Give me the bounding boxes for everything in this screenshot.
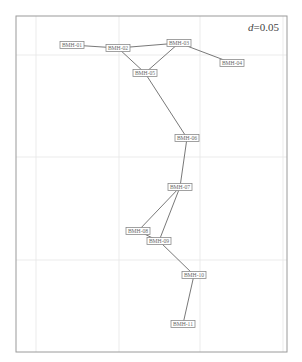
- node-label: BMH-05: [135, 70, 155, 76]
- edge-bmh-07-bmh-08: [138, 187, 180, 231]
- node-label: BMH-03: [169, 40, 189, 46]
- gridlines: [16, 16, 287, 352]
- node-label: BMH-07: [170, 184, 190, 190]
- edges: [72, 43, 232, 324]
- node-label: BMH-11: [173, 321, 193, 327]
- node-bmh-08: BMH-08: [126, 228, 150, 235]
- node-label: BMH-01: [62, 42, 82, 48]
- node-bmh-07: BMH-07: [168, 184, 192, 191]
- node-bmh-03: BMH-03: [167, 40, 191, 47]
- nodes: BMH-01BMH-02BMH-03BMH-04BMH-05BMH-06BMH-…: [60, 40, 244, 328]
- node-bmh-09: BMH-09: [147, 238, 171, 245]
- node-label: BMH-08: [128, 228, 148, 234]
- plot-frame: [16, 16, 287, 352]
- node-bmh-10: BMH-10: [182, 272, 206, 279]
- node-label: BMH-06: [177, 135, 197, 141]
- edge-bmh-06-bmh-07: [180, 138, 187, 187]
- distance-annotation: d=0.05: [248, 21, 279, 33]
- node-label: BMH-04: [222, 60, 242, 66]
- node-label: BMH-09: [149, 238, 169, 244]
- diagram-svg: BMH-01BMH-02BMH-03BMH-04BMH-05BMH-06BMH-…: [0, 0, 302, 362]
- edge-bmh-05-bmh-06: [145, 73, 187, 138]
- node-bmh-06: BMH-06: [175, 135, 199, 142]
- node-bmh-05: BMH-05: [133, 70, 157, 77]
- node-bmh-01: BMH-01: [60, 42, 84, 49]
- network-diagram: BMH-01BMH-02BMH-03BMH-04BMH-05BMH-06BMH-…: [0, 0, 302, 362]
- edge-bmh-09-bmh-10: [159, 241, 194, 275]
- edge-bmh-03-bmh-05: [145, 43, 179, 73]
- annotation-value: =0.05: [254, 21, 280, 33]
- node-label: BMH-02: [108, 45, 128, 51]
- node-label: BMH-10: [184, 272, 204, 278]
- edge-bmh-07-bmh-09: [159, 187, 180, 241]
- edge-bmh-10-bmh-11: [183, 275, 194, 324]
- node-bmh-02: BMH-02: [106, 45, 130, 52]
- node-bmh-11: BMH-11: [171, 321, 195, 328]
- node-bmh-04: BMH-04: [220, 60, 244, 67]
